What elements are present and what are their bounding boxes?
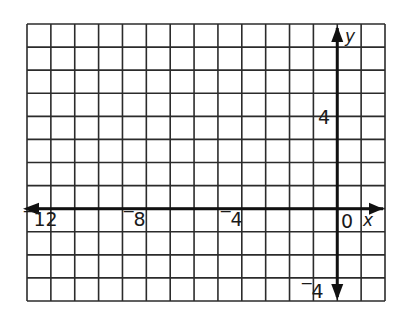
grid-lines	[27, 24, 385, 301]
x-axis-label: x	[363, 212, 373, 229]
y-tick-label-neg4: ‾4	[302, 282, 324, 301]
y-axis-up-arrow-icon	[331, 26, 343, 42]
x-tick-label-neg12: ‾12	[24, 210, 58, 229]
x-tick-label-neg8: ‾8	[124, 210, 146, 229]
y-axis-down-arrow-icon	[331, 284, 343, 300]
x-tick-label-0: 0	[341, 212, 353, 231]
y-tick-label-4: 4	[318, 108, 330, 127]
y-axis-label: y	[345, 28, 355, 45]
x-tick-label-neg4: ‾4	[221, 210, 243, 229]
coordinate-plane	[0, 0, 402, 321]
